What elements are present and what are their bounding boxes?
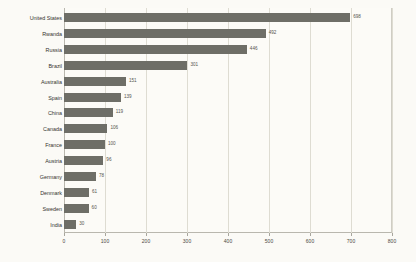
x-tick-mark xyxy=(146,233,147,236)
x-tick-mark xyxy=(187,233,188,236)
category-label: Sweden xyxy=(43,201,62,217)
category-label: Germany xyxy=(40,169,62,185)
x-tick-label: 100 xyxy=(101,238,109,244)
x-tick-label: 800 xyxy=(388,238,396,244)
x-tick-label: 400 xyxy=(224,238,232,244)
x-tick-mark xyxy=(64,233,65,236)
category-label: India xyxy=(50,217,62,233)
x-tick-mark xyxy=(228,233,229,236)
bar-chart: 6984924463011511391191061009678616030 Un… xyxy=(0,0,416,262)
category-label: Denmark xyxy=(40,185,62,201)
category-label: Rwanda xyxy=(42,26,62,42)
category-label: China xyxy=(48,105,62,121)
x-tick-mark xyxy=(269,233,270,236)
category-label: Brazil xyxy=(49,58,62,74)
category-label: United States xyxy=(30,10,62,26)
x-tick-mark xyxy=(310,233,311,236)
category-labels: United StatesRwandaRussiaBrazilAustralia… xyxy=(0,8,416,233)
category-label: Spain xyxy=(48,90,62,106)
category-label: France xyxy=(45,137,62,153)
x-tick-mark xyxy=(105,233,106,236)
x-tick-mark xyxy=(351,233,352,236)
category-label: Canada xyxy=(43,121,62,137)
x-tick-label: 300 xyxy=(183,238,191,244)
x-tick-label: 200 xyxy=(142,238,150,244)
category-label: Australia xyxy=(41,74,62,90)
x-tick-label: 700 xyxy=(347,238,355,244)
x-tick-label: 0 xyxy=(63,238,66,244)
x-tick-mark xyxy=(392,233,393,236)
x-tick-label: 500 xyxy=(265,238,273,244)
category-label: Austria xyxy=(45,153,62,169)
x-tick-label: 600 xyxy=(306,238,314,244)
category-label: Russia xyxy=(46,42,62,58)
